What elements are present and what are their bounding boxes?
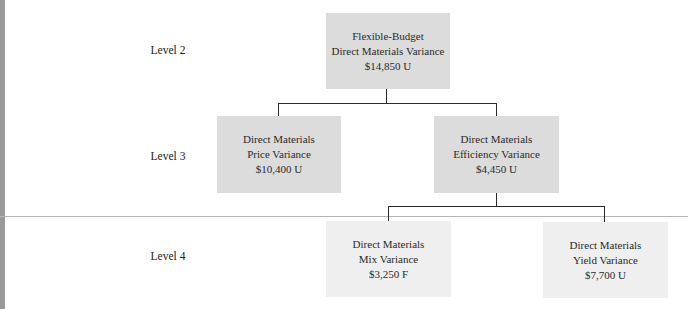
node-efficiency-variance: Direct Materials Efficiency Variance $4,… [434, 116, 559, 193]
node-flexible-budget-variance: Flexible-Budget Direct Materials Varianc… [326, 13, 450, 89]
connector-to-yield [604, 206, 605, 222]
node-title-line-2: Yield Variance [573, 253, 638, 268]
connector-horizontal-level-3 [278, 103, 497, 104]
node-title-line-2: Efficiency Variance [453, 147, 540, 162]
connector-horizontal-level-4 [388, 206, 605, 207]
node-title-line-1: Flexible-Budget [352, 29, 424, 44]
node-price-variance: Direct Materials Price Variance $10,400 … [217, 116, 341, 193]
node-title-line-1: Direct Materials [353, 237, 425, 252]
node-title-line-2: Price Variance [247, 147, 311, 162]
node-yield-variance: Direct Materials Yield Variance $7,700 U [543, 222, 668, 298]
connector-to-efficiency [496, 103, 497, 116]
level-3-label: Level 3 [146, 150, 190, 162]
node-amount: $10,400 U [256, 162, 302, 177]
level-4-label: Level 4 [146, 250, 190, 262]
node-title-line-2: Direct Materials Variance [332, 44, 445, 59]
connector-vertical-efficiency [496, 193, 497, 206]
connector-vertical-root [386, 89, 387, 103]
node-title-line-1: Direct Materials [461, 132, 533, 147]
page-edge-strip [0, 0, 5, 309]
level-2-label: Level 2 [146, 44, 190, 56]
connector-to-mix [388, 206, 389, 221]
level-separator-line [0, 216, 688, 217]
node-mix-variance: Direct Materials Mix Variance $3,250 F [326, 221, 451, 297]
node-amount: $7,700 U [585, 268, 626, 283]
node-amount: $14,850 U [365, 59, 411, 74]
node-title-line-2: Mix Variance [359, 252, 418, 267]
node-amount: $4,450 U [476, 162, 517, 177]
node-title-line-1: Direct Materials [243, 132, 315, 147]
node-amount: $3,250 F [369, 267, 408, 282]
node-title-line-1: Direct Materials [570, 238, 642, 253]
connector-to-price [278, 103, 279, 116]
